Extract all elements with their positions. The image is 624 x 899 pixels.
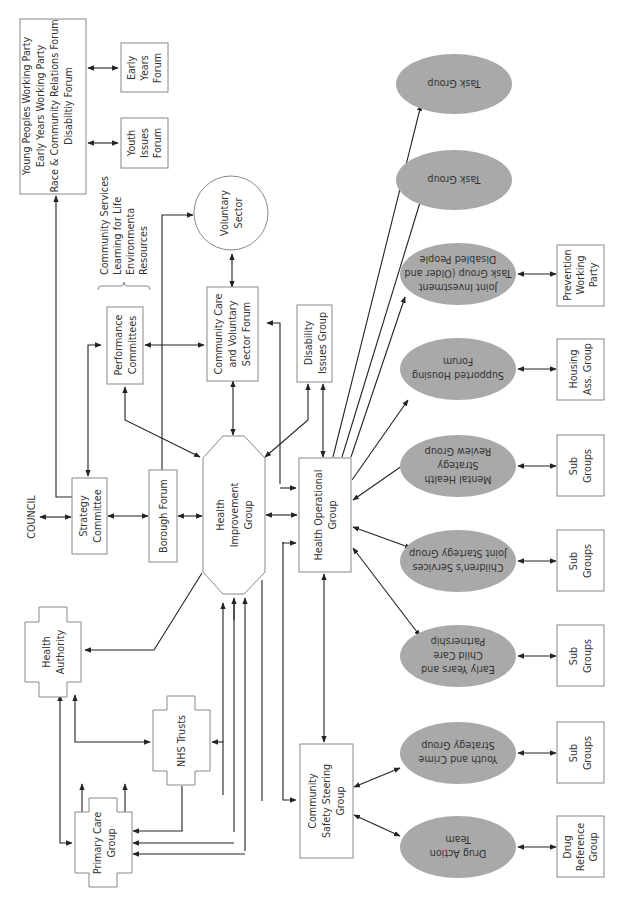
label: Community	[307, 773, 318, 829]
label: Strategy	[437, 460, 478, 471]
sub-groups-youth-crime: Sub Groups	[557, 722, 604, 783]
drug-reference-group: Drug Reference Group	[557, 816, 604, 877]
label: Years	[139, 55, 150, 81]
label: Committee	[92, 489, 103, 542]
disability-issues-group: Disability Issues Group	[297, 305, 332, 382]
label: Forum	[152, 128, 163, 158]
label: Primary Care	[92, 812, 103, 874]
ellipse-supported-housing: Supported Housing Forum	[400, 338, 516, 400]
label: Committees	[127, 316, 138, 374]
label: Group	[335, 786, 346, 815]
label: Borough Forum	[158, 479, 169, 553]
label: Voluntary	[219, 190, 230, 236]
label: Strategy	[78, 495, 89, 536]
label: Sub	[568, 552, 579, 570]
label: Supported Housing	[412, 370, 504, 381]
label: Groups	[582, 736, 593, 770]
label: Disabled People	[420, 254, 497, 265]
label: Working	[575, 255, 586, 294]
label: Group	[588, 832, 599, 861]
organisation-diagram: Young Peoples Working Party Early Years …	[0, 0, 624, 899]
label: NHS Trusts	[176, 715, 187, 767]
label: Group	[243, 500, 254, 529]
label: Forum	[443, 356, 473, 367]
label: Environmenta	[125, 208, 136, 275]
label: Youth	[126, 130, 137, 157]
ellipse-childrens-services: Children's Services Joint Startegy Group	[400, 530, 516, 592]
borough-forum: Borough Forum	[149, 470, 177, 562]
label: Party	[588, 262, 599, 287]
label: Children's Services	[412, 562, 503, 573]
label: Team	[445, 834, 471, 845]
label: Sector Forum	[241, 302, 252, 366]
label: Task Group	[428, 174, 482, 185]
health-improvement-group: Health Improvement Group	[203, 436, 265, 594]
label: Partnership	[431, 636, 486, 647]
forums-box: Young Peoples Working Party Early Years …	[20, 19, 86, 194]
council-label: COUNCIL	[26, 495, 37, 539]
label: Drug Action	[430, 848, 487, 859]
label: Early Years and	[421, 664, 495, 675]
label: Health Operational	[313, 470, 324, 561]
label: Child Care	[433, 650, 483, 661]
ellipse-task-group-2: Task Group	[396, 150, 512, 210]
label: Sub	[568, 647, 579, 665]
label: Groups	[582, 449, 593, 483]
ellipse-youth-crime: Youth and Crime Strategy Group	[400, 722, 516, 784]
label: and Voluntary	[227, 300, 238, 367]
label: Groups	[582, 639, 593, 673]
strategy-committee: Strategy Committee	[72, 478, 107, 554]
label: Performance	[113, 315, 124, 376]
label: Authority	[55, 629, 66, 674]
label: Mental Health	[424, 474, 491, 485]
ellipse-drug-action: Drug Action Team	[400, 816, 516, 878]
label: Issues Group	[317, 312, 328, 374]
label: Sub	[568, 744, 579, 762]
sub-groups-childrens: Sub Groups	[557, 530, 604, 591]
label: Housing	[568, 350, 579, 389]
health-authority: Health Authority	[25, 607, 81, 697]
ellipse-task-group-1: Task Group	[396, 54, 512, 114]
label: Youth and Crime	[418, 754, 498, 765]
label: Ass. Group	[582, 343, 593, 395]
label: Drug	[562, 835, 573, 859]
performance-committee-list: Community Services Learning for Life Env…	[98, 176, 150, 290]
label: Task Group	[428, 78, 482, 89]
sub-groups-early-years: Sub Groups	[557, 625, 604, 686]
label: Safety Steering	[321, 764, 332, 838]
label: Groups	[582, 544, 593, 578]
label: Learning for Life	[112, 197, 123, 275]
ellipse-early-years-childcare: Early Years and Child Care Partnership	[400, 625, 516, 687]
community-safety-steering-group: Community Safety Steering Group	[300, 744, 353, 858]
primary-care-group: Primary Care Group	[75, 798, 132, 887]
label: Prevention	[562, 249, 573, 300]
label: COUNCIL	[26, 495, 37, 539]
label: Sub	[568, 457, 579, 475]
label: Health	[41, 636, 52, 668]
label: Community Care	[213, 294, 224, 375]
label: Group	[327, 500, 338, 529]
label: Resources	[138, 226, 149, 275]
ellipse-joint-investment: Joint Investment Task Group (Older and D…	[400, 243, 516, 305]
prevention-working-party: Prevention Working Party	[557, 245, 604, 306]
sub-groups-mental-health: Sub Groups	[557, 435, 604, 496]
forums-line-2: Early Years Working Party	[35, 44, 46, 167]
performance-committees: Performance Committees	[107, 307, 143, 384]
early-years-forum: Early Years Forum	[121, 43, 168, 92]
label: Joint Startegy Group	[409, 548, 508, 559]
community-care-forum: Community Care and Voluntary Sector Foru…	[207, 287, 258, 381]
label: Strategy Group	[421, 740, 494, 751]
forums-line-1: Young Peoples Working Party	[21, 36, 32, 176]
nhs-trusts: NHS Trusts	[153, 696, 210, 785]
youth-issues-forum: Youth Issues Forum	[121, 118, 168, 168]
label: Sector	[233, 198, 244, 229]
label: Disability	[303, 320, 314, 365]
label: Reference	[575, 823, 586, 871]
label: Improvement	[229, 482, 240, 547]
label: Forum	[152, 53, 163, 83]
label: Group	[106, 828, 117, 857]
forums-line-4: Disabiltiy Forum	[63, 67, 74, 145]
ellipse-mental-health: Mental Health Strategy Review Group	[400, 435, 516, 497]
label: Review Group	[425, 446, 492, 457]
forums-line-3: Race & Community Relations Forum	[49, 19, 60, 192]
